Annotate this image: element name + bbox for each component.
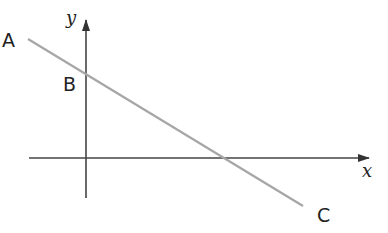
y-axis-label: y xyxy=(65,7,77,28)
point-label-c: C xyxy=(317,204,330,226)
line-abc xyxy=(28,39,303,206)
point-label-a: A xyxy=(2,29,15,51)
diagram-canvas: A B C y x xyxy=(0,0,388,233)
x-axis-label: x xyxy=(362,160,372,181)
point-label-b: B xyxy=(63,73,76,95)
